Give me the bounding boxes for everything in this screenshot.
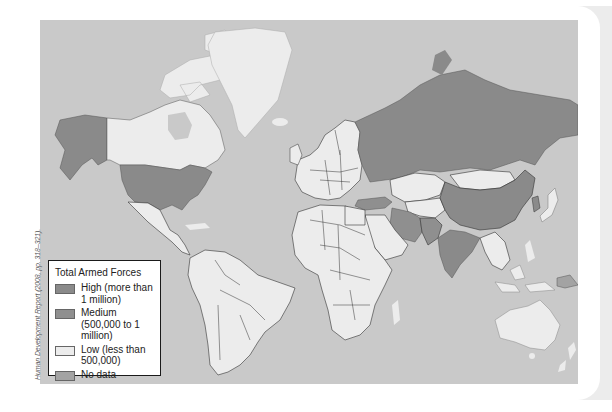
region-europe <box>295 120 362 200</box>
region-india <box>438 230 480 278</box>
source-citation: Human Development Report (2008, pp. 318–… <box>34 229 41 380</box>
region-indonesia <box>495 265 555 292</box>
legend-label-no-data: No data <box>81 369 116 381</box>
legend-swatch-low <box>55 346 75 356</box>
map-legend: Total Armed Forces High (more than 1 mil… <box>48 260 161 376</box>
region-new-zealand <box>558 342 576 372</box>
legend-item-no-data: No data <box>55 369 154 381</box>
region-philippines <box>525 240 535 262</box>
page: Human Development Report (2008, pp. 318–… <box>0 0 612 412</box>
legend-label-low: Low (less than 500,000) <box>81 344 154 367</box>
legend-item-low: Low (less than 500,000) <box>55 344 154 367</box>
legend-item-medium: Medium (500,000 to 1 million) <box>55 307 154 342</box>
region-mexico-central-america <box>128 202 190 255</box>
region-australia <box>495 300 560 350</box>
region-turkey <box>355 197 392 210</box>
legend-label-medium: Medium (500,000 to 1 million) <box>81 307 154 342</box>
region-southeast-asia <box>480 232 510 270</box>
legend-swatch-no-data <box>55 371 75 381</box>
region-russia <box>355 70 578 182</box>
region-papua-new-guinea <box>557 275 578 288</box>
region-madagascar <box>392 300 400 325</box>
region-caribbean <box>185 223 210 230</box>
region-alaska <box>55 115 107 180</box>
region-canada <box>107 100 225 170</box>
region-iceland <box>272 118 288 126</box>
legend-swatch-high <box>55 284 75 294</box>
region-tasmania <box>529 353 535 359</box>
region-japan <box>540 188 558 222</box>
legend-title: Total Armed Forces <box>55 267 154 279</box>
region-korea <box>532 196 540 212</box>
legend-item-high: High (more than 1 million) <box>55 282 154 305</box>
legend-label-high: High (more than 1 million) <box>81 282 154 305</box>
legend-swatch-medium <box>55 309 75 319</box>
region-south-america <box>188 250 295 375</box>
region-novaya-zemlya <box>432 50 452 75</box>
